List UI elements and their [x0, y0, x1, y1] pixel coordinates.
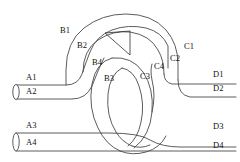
- inner-arch: [83, 32, 164, 74]
- tube-bundle-right: [164, 74, 236, 97]
- label-a3: A3: [26, 120, 36, 130]
- tube-a3-edge: [16, 133, 236, 147]
- arch-inner-edge: [83, 32, 164, 74]
- tube-d2-edge: [178, 80, 236, 97]
- knot-diagram: A1 A2 A3 A4 B1 B2 B3 B4 C1 C2 C3 C4 D1 D…: [0, 0, 240, 162]
- label-c3: C3: [140, 71, 150, 81]
- knot-diagram-canvas: A1 A2 A3 A4 B1 B2 B3 B4 C1 C2 C3 C4 D1 D…: [0, 0, 240, 162]
- tube-cap-bottom: [13, 133, 19, 151]
- diagram-labels: A1 A2 A3 A4 B1 B2 B3 B4 C1 C2 C3 C4 D1 D…: [26, 25, 224, 150]
- loop-outer-left: [91, 58, 120, 151]
- label-b2: B2: [77, 40, 87, 50]
- label-c1: C1: [184, 41, 194, 51]
- label-a4: A4: [26, 137, 37, 147]
- tube-cap-top: [13, 85, 19, 100]
- label-d2: D2: [213, 83, 223, 93]
- label-a2: A2: [26, 86, 36, 96]
- label-c4: C4: [154, 61, 165, 71]
- label-d3: D3: [213, 121, 223, 131]
- label-c2: C2: [170, 53, 180, 63]
- label-d1: D1: [213, 69, 223, 79]
- label-b3: B3: [104, 73, 114, 83]
- guide-line-diagonal: [105, 33, 130, 55]
- label-a1: A1: [26, 72, 36, 82]
- tube-d1-edge: [164, 74, 236, 84]
- label-d4: D4: [213, 140, 224, 150]
- label-b1: B1: [60, 25, 70, 35]
- loop-strand-descending-inner: [132, 145, 150, 147]
- label-b4: B4: [92, 57, 103, 67]
